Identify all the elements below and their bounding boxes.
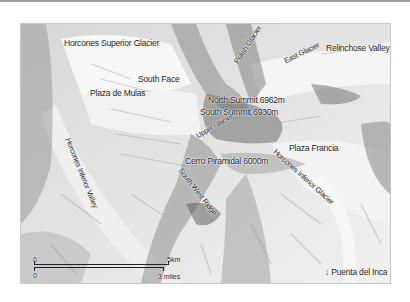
scale-tick <box>168 261 169 265</box>
scale-bar-mi <box>34 267 164 268</box>
scale-mi-max: 3 miles <box>158 273 180 280</box>
scale-tick <box>163 267 164 271</box>
scale-mi-zero: 0 <box>33 272 37 279</box>
scale-bar-km <box>34 264 169 265</box>
label-horcones-superior-glacier: Horcones Superior Glacier <box>64 39 159 48</box>
top-divider <box>0 0 410 2</box>
scale-tick <box>34 267 35 271</box>
label-plaza-de-mulas: Plaza de Mulas <box>90 89 145 98</box>
label-south-summit: South Summit 6930m <box>200 108 278 117</box>
label-puenta-del-inca: ↓ Puenta del Inca <box>325 268 387 277</box>
label-relinchose-valley: Relinchose Valley → <box>326 44 391 53</box>
label-south-face: South Face <box>138 75 179 84</box>
label-plaza-francia: Plaza Francia <box>289 144 338 153</box>
scale-tick <box>34 261 35 265</box>
relief-map[interactable]: Horcones Superior Glacier South Face Pla… <box>20 23 391 284</box>
label-cerro-piramidal: Cerro Piramidal 6000m <box>185 157 268 166</box>
label-north-summit: North Summit 6962m <box>208 96 285 105</box>
